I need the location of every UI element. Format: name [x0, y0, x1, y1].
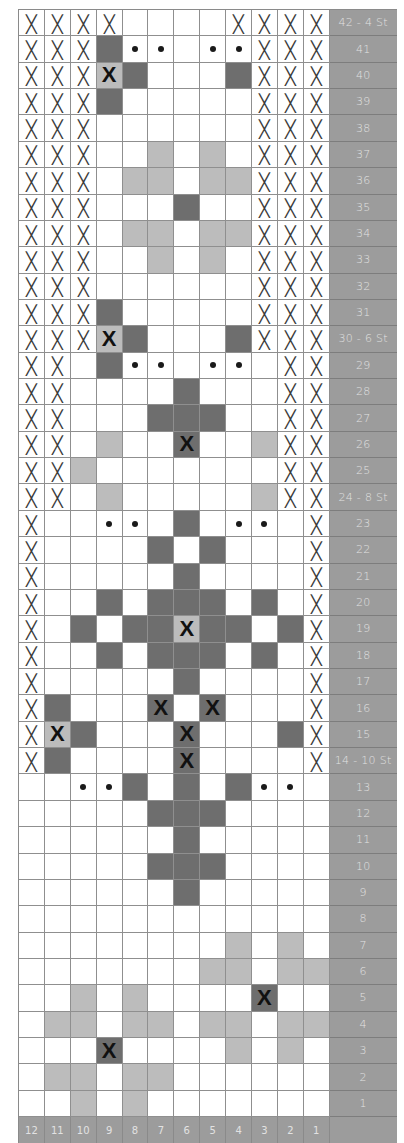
light-cell	[71, 985, 97, 1011]
empty-cell	[97, 722, 123, 748]
dark-cell	[200, 616, 226, 642]
x-mark-icon	[26, 39, 37, 60]
dark-cell	[200, 801, 226, 827]
row-label: 34	[330, 221, 397, 247]
empty-cell	[123, 115, 149, 141]
empty-cell	[97, 537, 123, 563]
empty-cell	[45, 1091, 71, 1117]
x-mark-icon	[285, 408, 296, 429]
empty-cell	[123, 1038, 149, 1064]
empty-cell	[148, 458, 174, 484]
dark-cell	[97, 353, 123, 379]
empty-cell	[97, 801, 123, 827]
empty-cell	[174, 353, 200, 379]
no-stitch-cell	[19, 484, 45, 510]
empty-cell	[19, 827, 45, 853]
no-stitch-cell	[304, 458, 330, 484]
x-mark-icon	[26, 355, 37, 376]
row-label: 28	[330, 379, 397, 405]
empty-cell	[123, 379, 149, 405]
no-stitch-cell	[45, 168, 71, 194]
dark-bold-x-cell: X	[200, 695, 226, 721]
empty-cell	[200, 1038, 226, 1064]
empty-cell	[174, 168, 200, 194]
dark-cell	[148, 801, 174, 827]
empty-cell	[278, 906, 304, 932]
empty-cell	[174, 326, 200, 352]
empty-cell	[174, 274, 200, 300]
dark-cell	[45, 695, 71, 721]
empty-cell	[200, 511, 226, 537]
empty-cell	[97, 274, 123, 300]
light-cell	[97, 484, 123, 510]
empty-cell	[148, 906, 174, 932]
empty-cell	[226, 827, 252, 853]
dark-cell	[200, 854, 226, 880]
x-mark-icon	[285, 91, 296, 112]
x-mark-icon	[52, 355, 63, 376]
empty-cell	[174, 933, 200, 959]
empty-cell	[97, 405, 123, 431]
x-mark-icon	[259, 65, 270, 86]
empty-cell	[226, 195, 252, 221]
bold-x-icon: X	[257, 987, 272, 1009]
no-stitch-cell	[19, 722, 45, 748]
empty-cell	[252, 1012, 278, 1038]
dark-cell	[200, 590, 226, 616]
x-mark-icon	[52, 276, 63, 297]
x-mark-icon	[311, 249, 322, 270]
empty-cell	[148, 880, 174, 906]
empty-cell	[123, 537, 149, 563]
no-stitch-cell	[278, 432, 304, 458]
row-label: 42 - 4 St	[330, 10, 397, 36]
x-mark-icon	[52, 91, 63, 112]
dot-icon	[132, 46, 138, 52]
empty-cell	[200, 564, 226, 590]
x-mark-icon	[259, 197, 270, 218]
empty-cell	[148, 300, 174, 326]
x-mark-icon	[259, 223, 270, 244]
empty-cell	[71, 432, 97, 458]
empty-cell	[19, 774, 45, 800]
empty-cell	[278, 854, 304, 880]
row-label: 35	[330, 195, 397, 221]
light-cell	[123, 168, 149, 194]
no-stitch-cell	[304, 432, 330, 458]
x-mark-icon	[311, 91, 322, 112]
no-stitch-cell	[19, 590, 45, 616]
x-mark-icon	[311, 170, 322, 191]
dot-icon	[236, 46, 242, 52]
dark-cell	[71, 616, 97, 642]
x-mark-icon	[104, 12, 115, 33]
no-stitch-cell	[71, 247, 97, 273]
empty-cell	[19, 1091, 45, 1117]
empty-cell	[226, 564, 252, 590]
x-mark-icon	[311, 539, 322, 560]
dot-cell	[278, 774, 304, 800]
empty-cell	[278, 511, 304, 537]
empty-cell	[97, 195, 123, 221]
no-stitch-cell	[71, 142, 97, 168]
no-stitch-cell	[304, 89, 330, 115]
empty-cell	[200, 827, 226, 853]
x-mark-icon	[259, 12, 270, 33]
row-label: 25	[330, 458, 397, 484]
empty-cell	[71, 1038, 97, 1064]
row-label: 21	[330, 564, 397, 590]
empty-cell	[45, 827, 71, 853]
light-cell	[45, 1012, 71, 1038]
no-stitch-cell	[252, 326, 278, 352]
no-stitch-cell	[278, 10, 304, 36]
empty-cell	[19, 880, 45, 906]
no-stitch-cell	[71, 89, 97, 115]
dark-cell	[174, 379, 200, 405]
x-mark-icon	[311, 592, 322, 613]
row-label: 20	[330, 590, 397, 616]
empty-cell	[252, 458, 278, 484]
no-stitch-cell	[304, 511, 330, 537]
x-mark-icon	[78, 39, 89, 60]
empty-cell	[174, 115, 200, 141]
light-cell	[71, 1064, 97, 1090]
empty-cell	[148, 432, 174, 458]
empty-cell	[200, 933, 226, 959]
